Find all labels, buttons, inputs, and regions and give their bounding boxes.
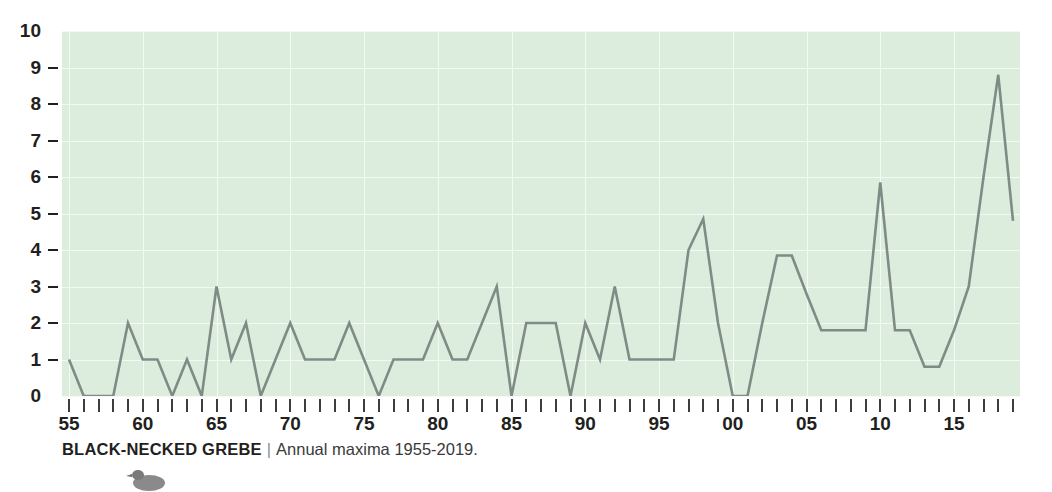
- x-axis-tick-mark: [1012, 399, 1014, 412]
- x-axis-tick-mark: [216, 399, 218, 412]
- x-axis-tick-mark: [850, 399, 852, 412]
- x-axis-tick-label: 85: [501, 413, 522, 435]
- y-axis-tick: 4: [30, 241, 62, 259]
- x-axis-tick-mark: [171, 399, 173, 412]
- x-axis-tick-mark: [201, 399, 203, 412]
- x-axis-tick-mark: [555, 399, 557, 412]
- x-axis-tick-mark: [319, 399, 321, 412]
- x-axis-tick-mark: [83, 399, 85, 412]
- x-axis-tick-mark: [334, 399, 336, 412]
- x-axis-tick-mark: [348, 399, 350, 412]
- x-axis-tick-mark: [230, 399, 232, 412]
- x-axis-tick-mark: [717, 399, 719, 412]
- x-axis-tick-mark: [894, 399, 896, 412]
- y-axis-tick-mark: [48, 213, 58, 215]
- x-axis-tick-mark: [304, 399, 306, 412]
- x-axis-tick-mark: [776, 399, 778, 412]
- x-axis-tick-mark: [570, 399, 572, 412]
- x-axis-tick-mark: [658, 399, 660, 412]
- x-axis: 55606570758085909500051015: [0, 396, 1052, 436]
- x-axis-tick-mark: [407, 399, 409, 412]
- x-axis-tick-label: 00: [722, 413, 743, 435]
- caption-description: Annual maxima 1955-2019.: [276, 440, 478, 458]
- x-axis-tick-mark: [260, 399, 262, 412]
- x-axis-tick-mark: [791, 399, 793, 412]
- x-axis-tick-mark: [540, 399, 542, 412]
- x-axis-tick-mark: [186, 399, 188, 412]
- x-axis-tick-mark: [761, 399, 763, 412]
- x-axis-tick-mark: [378, 399, 380, 412]
- y-axis-tick: 8: [30, 95, 62, 113]
- y-axis-tick: 10: [20, 22, 62, 40]
- x-axis-tick-mark: [584, 399, 586, 412]
- y-axis-tick-mark: [48, 103, 58, 105]
- x-axis-tick-mark: [157, 399, 159, 412]
- y-axis-tick-mark: [48, 67, 58, 69]
- y-axis-tick: 1: [30, 351, 62, 369]
- x-axis-tick-mark: [983, 399, 985, 412]
- y-axis-tick-mark: [48, 30, 58, 32]
- x-axis-tick-mark: [511, 399, 513, 412]
- y-axis-tick: 3: [30, 278, 62, 296]
- caption-separator: |: [262, 440, 276, 458]
- y-axis-tick-label: 7: [30, 132, 41, 150]
- x-axis-tick-label: 75: [353, 413, 374, 435]
- x-axis-tick-label: 10: [870, 413, 891, 435]
- x-axis-tick-mark: [496, 399, 498, 412]
- x-axis-tick-mark: [688, 399, 690, 412]
- x-axis-tick-label: 05: [796, 413, 817, 435]
- y-axis-tick-label: 8: [30, 95, 41, 113]
- x-axis-tick-mark: [68, 399, 70, 412]
- x-axis-tick-mark: [879, 399, 881, 412]
- x-axis-tick-mark: [835, 399, 837, 412]
- x-axis-tick-mark: [245, 399, 247, 412]
- y-axis-tick-mark: [48, 359, 58, 361]
- x-axis-tick-mark: [732, 399, 734, 412]
- x-axis-tick-mark: [702, 399, 704, 412]
- x-axis-tick-label: 95: [648, 413, 669, 435]
- y-axis-tick: 6: [30, 168, 62, 186]
- caption-species: BLACK-NECKED GREBE: [62, 440, 262, 458]
- x-axis-tick-mark: [820, 399, 822, 412]
- bird-thumbnail-icon: [122, 466, 176, 492]
- x-axis-tick-mark: [747, 399, 749, 412]
- x-axis-tick-mark: [363, 399, 365, 412]
- y-axis-tick-label: 10: [20, 22, 41, 40]
- x-axis-tick-mark: [127, 399, 129, 412]
- x-axis-tick-mark: [968, 399, 970, 412]
- x-axis-tick-mark: [643, 399, 645, 412]
- plot-wrapper: 109876543210 55606570758085909500051015: [0, 0, 1052, 430]
- y-axis-tick: 5: [30, 205, 62, 223]
- x-axis-tick-mark: [289, 399, 291, 412]
- x-axis-tick-mark: [865, 399, 867, 412]
- x-axis-tick-mark: [481, 399, 483, 412]
- x-axis-tick-mark: [437, 399, 439, 412]
- x-axis-tick-mark: [997, 399, 999, 412]
- x-axis-tick-mark: [629, 399, 631, 412]
- x-axis-tick-label: 55: [58, 413, 79, 435]
- y-axis-tick-label: 2: [30, 314, 41, 332]
- y-axis-tick-mark: [48, 249, 58, 251]
- x-axis-tick-mark: [924, 399, 926, 412]
- y-axis-tick: 9: [30, 59, 62, 77]
- x-axis-tick-mark: [142, 399, 144, 412]
- x-axis-tick-mark: [452, 399, 454, 412]
- y-axis-tick-mark: [48, 140, 58, 142]
- x-axis-tick-mark: [806, 399, 808, 412]
- y-axis-tick-label: 3: [30, 278, 41, 296]
- x-axis-tick-mark: [98, 399, 100, 412]
- x-axis-tick-mark: [525, 399, 527, 412]
- x-axis-tick-mark: [466, 399, 468, 412]
- chart-caption: BLACK-NECKED GREBE|Annual maxima 1955-20…: [62, 440, 478, 459]
- x-axis-tick-label: 65: [206, 413, 227, 435]
- x-axis-tick-mark: [614, 399, 616, 412]
- grebe-silhouette-icon: [122, 466, 176, 492]
- x-axis-tick-mark: [599, 399, 601, 412]
- y-axis-tick-label: 9: [30, 59, 41, 77]
- y-axis-tick: 2: [30, 314, 62, 332]
- x-axis-tick-mark: [393, 399, 395, 412]
- x-axis-tick-mark: [422, 399, 424, 412]
- y-axis-tick-label: 1: [30, 351, 41, 369]
- y-axis-tick-mark: [48, 286, 58, 288]
